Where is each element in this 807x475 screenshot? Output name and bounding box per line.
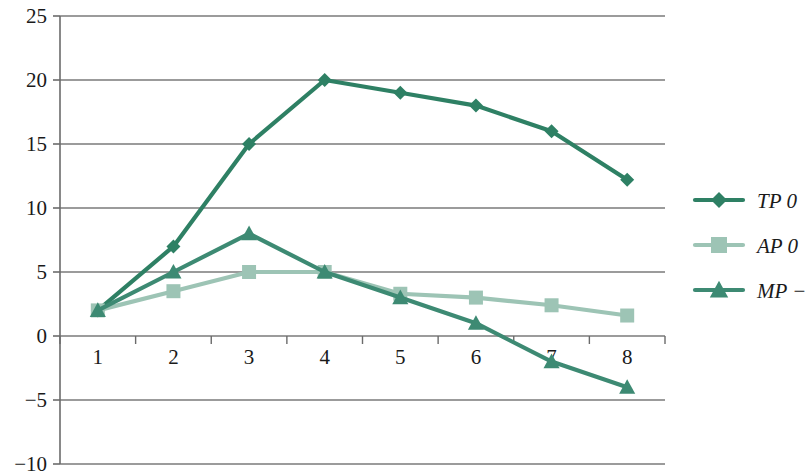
legend-entry-3[interactable]: MP − (695, 279, 806, 303)
chart-canvas: −10−50510152025 12345678 TP 0AP 0MP − (0, 0, 807, 475)
data-point-marker (242, 265, 256, 279)
data-point-marker (166, 284, 180, 298)
x-axis-tick-label: 1 (93, 345, 104, 369)
legend-swatch-marker (711, 237, 727, 253)
y-axis-tick-label: −5 (25, 388, 47, 412)
data-point-marker (545, 298, 559, 312)
data-point-marker (241, 226, 257, 241)
data-point-marker (469, 291, 483, 305)
y-axis-tick-label: 5 (37, 260, 48, 284)
y-axis-tick-label: −10 (14, 452, 47, 475)
x-axis-tick-label: 8 (622, 345, 633, 369)
legend-label: MP − (756, 279, 806, 303)
legend-label: AP 0 (755, 234, 799, 258)
legend-label: TP 0 (757, 189, 797, 213)
y-axis-tick-label: 10 (26, 196, 47, 220)
data-point-marker (620, 309, 634, 323)
y-axis-tick-label: 0 (37, 324, 48, 348)
data-point-marker (393, 86, 407, 100)
x-axis-tick-label: 2 (168, 345, 179, 369)
x-axis-tick-label: 4 (319, 345, 330, 369)
chart-legend: TP 0AP 0MP − (695, 189, 806, 303)
legend-swatch-marker (711, 192, 727, 208)
x-axis-tick-label: 6 (471, 345, 482, 369)
y-axis-tick-label: 25 (26, 4, 47, 28)
legend-entry-1[interactable]: TP 0 (695, 189, 797, 213)
line-chart: −10−50510152025 12345678 TP 0AP 0MP − (0, 0, 807, 475)
y-axis-tick-label: 20 (26, 68, 47, 92)
x-axis-tick-label: 3 (244, 345, 255, 369)
axis-ticks (53, 16, 665, 464)
data-point-marker (469, 99, 483, 113)
legend-entry-2[interactable]: AP 0 (695, 234, 799, 258)
y-axis-tick-label: 15 (26, 132, 47, 156)
y-axis-tick-labels: −10−50510152025 (14, 4, 47, 475)
x-axis-tick-label: 5 (395, 345, 406, 369)
gridlines (60, 16, 665, 464)
